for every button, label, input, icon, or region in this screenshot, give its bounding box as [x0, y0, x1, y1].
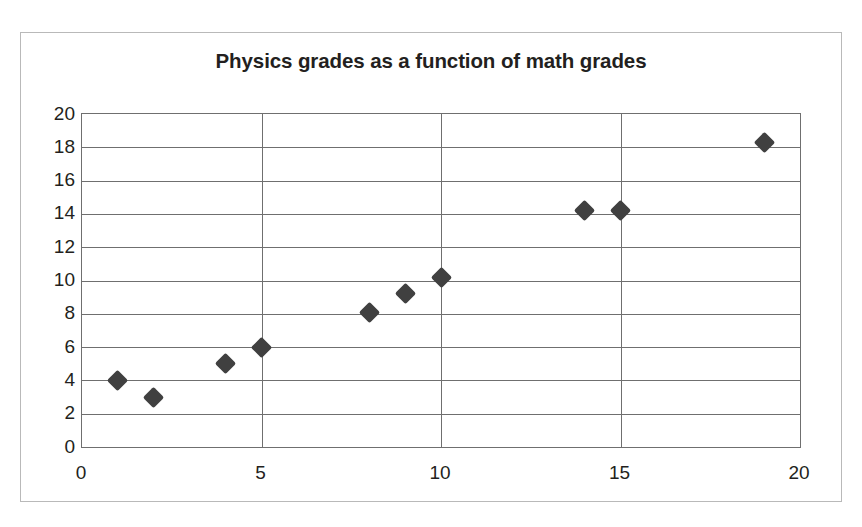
data-point [251, 336, 272, 357]
data-point [107, 370, 128, 391]
data-point [215, 353, 236, 374]
y-axis-tick-labels: 02468101214161820 [35, 113, 75, 448]
y-tick-label-18: 18 [35, 137, 75, 156]
data-point [430, 267, 451, 288]
scatter-series [82, 114, 800, 447]
y-tick-label-20: 20 [35, 104, 75, 123]
x-tick-label-5: 5 [231, 463, 291, 482]
data-point [143, 386, 164, 407]
plot-area [81, 113, 801, 448]
data-point [359, 302, 380, 323]
y-tick-label-6: 6 [35, 337, 75, 356]
data-point [394, 283, 415, 304]
data-point [610, 200, 631, 221]
data-point [753, 132, 774, 153]
y-tick-label-14: 14 [35, 203, 75, 222]
y-tick-label-4: 4 [35, 370, 75, 389]
x-tick-label-20: 20 [769, 463, 829, 482]
x-tick-label-0: 0 [51, 463, 111, 482]
x-axis-tick-labels: 05101520 [81, 463, 801, 493]
y-tick-label-16: 16 [35, 170, 75, 189]
y-tick-label-2: 2 [35, 403, 75, 422]
x-tick-label-10: 10 [410, 463, 470, 482]
x-tick-label-15: 15 [590, 463, 650, 482]
chart-title: Physics grades as a function of math gra… [21, 49, 841, 73]
y-tick-label-8: 8 [35, 303, 75, 322]
data-point [574, 200, 595, 221]
y-tick-label-12: 12 [35, 237, 75, 256]
y-tick-label-10: 10 [35, 270, 75, 289]
y-tick-label-0: 0 [35, 437, 75, 456]
figure-frame: Physics grades as a function of math gra… [20, 32, 842, 502]
